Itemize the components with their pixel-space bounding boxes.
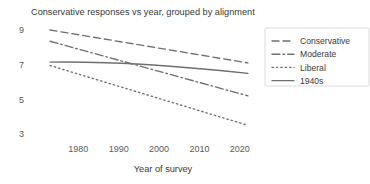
y-tick-label: 7 [19, 60, 24, 70]
y-tick-label: 3 [19, 129, 24, 139]
legend-label-moderate: Moderate [300, 49, 337, 59]
x-axis-label: Year of survey [134, 164, 193, 174]
y-tick-label: 9 [19, 25, 24, 35]
series-line-moderate [50, 41, 248, 96]
line-chart-canvas: Conservative responses vs year, grouped … [0, 0, 370, 184]
series-line-liberal [50, 66, 248, 126]
legend-label-1940s: 1940s [300, 76, 323, 86]
x-tick-label: 2020 [230, 144, 250, 154]
chart-legend[interactable]: ConservativeModerateLiberal1940s [265, 28, 369, 86]
chart-title: Conservative responses vs year, grouped … [31, 7, 255, 17]
x-tick-label: 2010 [189, 144, 209, 154]
chart-figure: Conservative responses vs year, grouped … [0, 0, 370, 184]
y-tick-label: 5 [19, 95, 24, 105]
legend-label-liberal: Liberal [300, 63, 326, 73]
series-line-conservative [50, 30, 248, 63]
series-line-1940s [50, 62, 248, 73]
x-tick-label: 1990 [109, 144, 129, 154]
legend-label-conservative: Conservative [300, 36, 350, 46]
x-axis-tick-labels: 19801990200020102020 [68, 144, 250, 154]
x-tick-label: 1980 [68, 144, 88, 154]
y-axis-tick-labels: 3579 [19, 25, 24, 139]
data-series-group [50, 30, 248, 125]
x-tick-label: 2000 [149, 144, 169, 154]
